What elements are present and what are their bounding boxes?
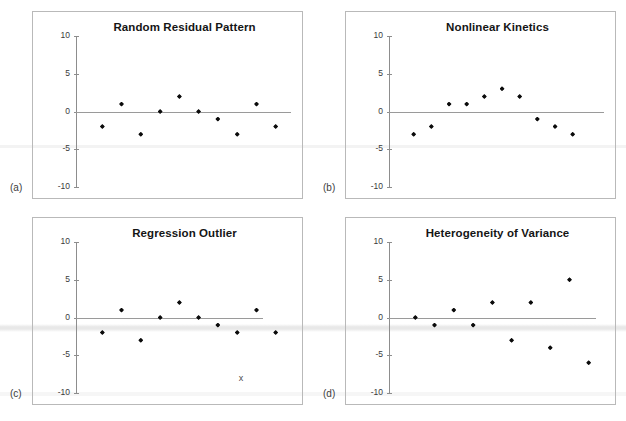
y-axis-tick-label: -10 (38, 182, 70, 191)
data-point (196, 109, 201, 114)
y-axis-tick-label: 0 (351, 107, 383, 116)
data-point (500, 86, 505, 91)
y-axis-tick (74, 74, 79, 75)
data-point (553, 124, 558, 129)
y-axis-tick (74, 36, 79, 37)
panel-c-letter: (c) (10, 388, 22, 399)
y-axis-tick (387, 242, 392, 243)
data-point (119, 308, 124, 313)
zero-reference-line (76, 112, 291, 113)
y-axis-tick-label: -5 (351, 144, 383, 153)
panel-b-plot-area: Nonlinear Kinetics 1050-5-10 (346, 12, 615, 198)
data-point (177, 94, 182, 99)
data-point (464, 102, 469, 107)
panel-b: Nonlinear Kinetics 1050-5-10 (345, 11, 616, 199)
y-axis-tick-label: 10 (38, 31, 70, 40)
residual-plot-figure: Random Residual Pattern 1050-5-10 (a) No… (0, 0, 626, 421)
panel-c: Regression Outlier 1050-5-10x (32, 217, 303, 405)
y-axis-tick-label: -10 (351, 388, 383, 397)
y-axis-tick (74, 149, 79, 150)
panel-a-plot-area: Random Residual Pattern 1050-5-10 (33, 12, 302, 198)
data-point (215, 323, 220, 328)
data-point (432, 323, 437, 328)
data-point (517, 94, 522, 99)
data-point (100, 124, 105, 129)
data-point (413, 315, 418, 320)
y-axis-tick-label: 0 (38, 107, 70, 116)
y-axis-tick (387, 187, 392, 188)
data-point (509, 338, 514, 343)
y-axis-tick-label: -10 (351, 182, 383, 191)
outlier-marker: x (239, 373, 244, 383)
data-point (429, 124, 434, 129)
y-axis-tick (387, 74, 392, 75)
y-axis-tick-label: 0 (38, 313, 70, 322)
y-axis-tick (74, 355, 79, 356)
data-point (235, 132, 240, 137)
data-point (138, 132, 143, 137)
panel-d-letter: (d) (323, 388, 335, 399)
y-axis-tick-label: 5 (351, 69, 383, 78)
data-point (586, 360, 591, 365)
data-point (482, 94, 487, 99)
data-point (215, 117, 220, 122)
data-point (235, 330, 240, 335)
y-axis-tick-label: 5 (38, 275, 70, 284)
y-axis-tick-label: -5 (38, 144, 70, 153)
panel-c-plot-area: Regression Outlier 1050-5-10x (33, 218, 302, 404)
panel-a-title: Random Residual Pattern (33, 21, 302, 33)
y-axis-tick (74, 242, 79, 243)
y-axis-tick (74, 280, 79, 281)
data-point (490, 300, 495, 305)
data-point (411, 132, 416, 137)
data-point (447, 102, 452, 107)
panel-b-title: Nonlinear Kinetics (346, 21, 615, 33)
data-point (254, 102, 259, 107)
data-point (528, 300, 533, 305)
y-axis-tick-label: 10 (351, 237, 383, 246)
y-axis-tick-label: -5 (38, 350, 70, 359)
panel-c-title: Regression Outlier (33, 227, 302, 239)
data-point (158, 315, 163, 320)
data-point (451, 308, 456, 313)
data-point (567, 277, 572, 282)
y-axis-tick (387, 393, 392, 394)
data-point (535, 117, 540, 122)
data-point (254, 308, 259, 313)
y-axis-tick (387, 355, 392, 356)
panel-d: Heterogeneity of Variance 1050-5-10 (345, 217, 616, 405)
data-point (273, 124, 278, 129)
panel-a: Random Residual Pattern 1050-5-10 (32, 11, 303, 199)
zero-reference-line (76, 318, 263, 319)
data-point (548, 345, 553, 350)
data-point (570, 132, 575, 137)
data-point (273, 330, 278, 335)
y-axis-tick (387, 280, 392, 281)
y-axis-tick-label: 10 (351, 31, 383, 40)
y-axis-tick-label: -5 (351, 350, 383, 359)
panel-b-letter: (b) (323, 182, 335, 193)
zero-reference-line (389, 318, 596, 319)
panel-d-plot-area: Heterogeneity of Variance 1050-5-10 (346, 218, 615, 404)
y-axis-tick-label: 10 (38, 237, 70, 246)
y-axis-tick-label: 5 (38, 69, 70, 78)
data-point (138, 338, 143, 343)
data-point (119, 102, 124, 107)
panel-d-title: Heterogeneity of Variance (346, 227, 615, 239)
zero-reference-line (389, 112, 604, 113)
panel-a-letter: (a) (10, 182, 22, 193)
y-axis-tick (74, 393, 79, 394)
y-axis-tick-label: 0 (351, 313, 383, 322)
data-point (100, 330, 105, 335)
y-axis-tick-label: -10 (38, 388, 70, 397)
y-axis-tick (387, 36, 392, 37)
data-point (177, 300, 182, 305)
y-axis-tick-label: 5 (351, 275, 383, 284)
y-axis-tick (74, 187, 79, 188)
data-point (196, 315, 201, 320)
data-point (471, 323, 476, 328)
y-axis-tick (387, 149, 392, 150)
data-point (158, 109, 163, 114)
